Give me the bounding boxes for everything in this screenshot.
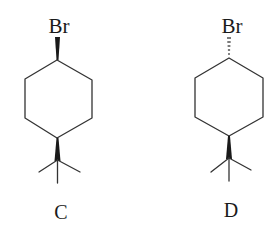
molecule-c: Br C: [25, 14, 92, 223]
cyclohexane-ring-c: [25, 60, 92, 138]
tert-butyl-group-d: [211, 158, 251, 181]
molecule-d: Br D: [195, 14, 263, 221]
cyclohexane-ring-d: [195, 58, 263, 136]
diagram-canvas: Br C Br D: [0, 0, 276, 225]
dashed-bond-br-d: [227, 38, 231, 54]
molecule-label-d: D: [224, 199, 238, 221]
tert-butyl-group-c: [39, 160, 80, 183]
wedge-bond-br-c: [55, 37, 60, 60]
wedge-bond-tbu-c: [55, 138, 61, 161]
molecule-label-c: C: [54, 201, 67, 223]
bromine-label-d: Br: [222, 14, 243, 38]
wedge-bond-tbu-d: [226, 136, 232, 159]
bromine-label-c: Br: [49, 14, 70, 38]
